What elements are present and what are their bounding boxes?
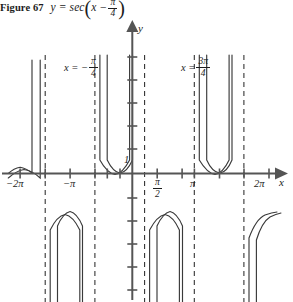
asymptote-label-right-lhs: x = [181, 62, 195, 73]
secant-graph-plot [0, 0, 293, 302]
x-tick-label-pi-over-2: π2 [152, 178, 163, 199]
pi-over-2-numerator: π [153, 178, 162, 188]
pi-over-2-fraction: π2 [153, 178, 162, 199]
curve-branch-ref-lower-right [157, 212, 183, 302]
curve-secant-shifted [8, 55, 277, 302]
x-tick-label-minus-pi: −π [63, 178, 75, 189]
asymptote-left-denominator: 4 [89, 69, 98, 79]
curve-branch-ref-right-outer [256, 213, 281, 302]
curve-branch-shift-lower-left [50, 215, 80, 302]
y-value-label-one: 1 [124, 154, 129, 165]
x-tick-label-2pi: 2π [254, 178, 265, 189]
curve-branch-ref-lower-left [58, 212, 83, 302]
asymptote-left-fraction: π4 [89, 57, 98, 78]
asymptote-left-numerator: π [89, 57, 98, 67]
asymptote-right-fraction: 3π4 [196, 57, 210, 78]
curve-branch-ref-left-outer [8, 60, 32, 174]
x-tick-label-minus-2pi: −2π [6, 178, 24, 189]
asymptote-right-numerator: 3π [196, 57, 210, 67]
curve-branch-shift-lower-right [150, 215, 180, 302]
asymptote-label-minus-pi-over-4: x = −π4 [64, 57, 99, 78]
curve-branch-shift-left-outer [8, 60, 40, 178]
y-axis-arrowhead [126, 20, 138, 32]
y-axis-label: y [138, 22, 143, 34]
figure-container: Figure 67y = sec(x −π4) [0, 0, 293, 302]
asymptote-right-denominator: 4 [196, 69, 210, 79]
pi-over-2-denominator: 2 [153, 190, 162, 200]
x-tick-label-pi: π [190, 178, 195, 189]
asymptote-label-3pi-over-4: x =3π4 [181, 57, 211, 78]
x-axis-label: x [279, 176, 284, 188]
asymptote-label-left-lhs: x = − [64, 62, 88, 73]
